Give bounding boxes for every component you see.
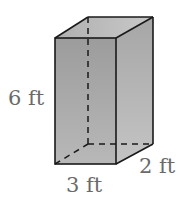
width-label: 3 ft — [66, 175, 102, 196]
depth-label: 2 ft — [139, 156, 175, 177]
side-face — [116, 17, 153, 164]
height-label: 6 ft — [8, 88, 44, 109]
